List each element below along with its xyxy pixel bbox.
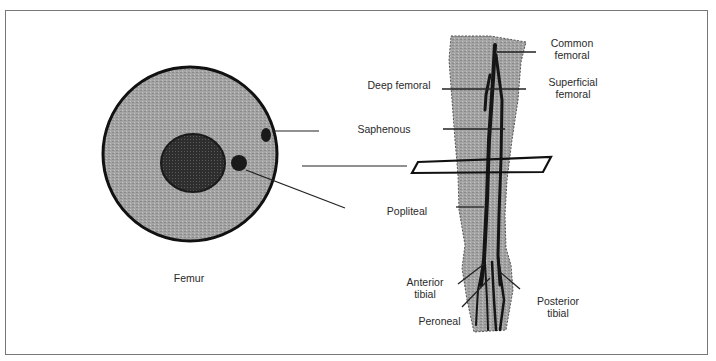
saphenous-vein-section (261, 128, 271, 142)
label-popliteal: Popliteal (377, 205, 437, 217)
label-saphenous: Saphenous (349, 123, 419, 135)
label-anterior-tibial: Anterior tibial (400, 276, 450, 300)
label-common-femoral: Common femoral (538, 37, 606, 61)
label-superficial-femoral: Superficial femoral (533, 76, 613, 100)
label-posterior-tibial: Posterior tibial (528, 295, 588, 319)
label-peroneal: Peroneal (412, 315, 467, 327)
thigh-cross-section (103, 67, 277, 241)
popliteal-vessel-section (231, 155, 247, 171)
femur-bone (161, 134, 225, 192)
label-femur: Femur (168, 272, 210, 284)
diagram-canvas (0, 0, 716, 361)
label-deep-femoral: Deep femoral (360, 79, 438, 91)
